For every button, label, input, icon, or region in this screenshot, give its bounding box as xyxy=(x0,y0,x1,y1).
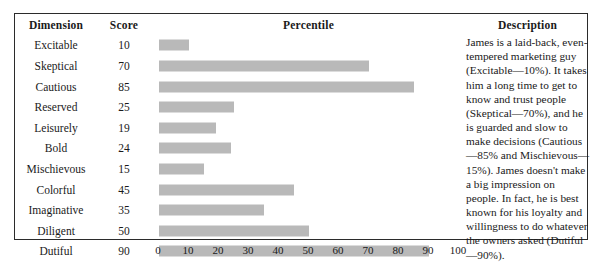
score-value: 35 xyxy=(97,200,151,221)
bar-track xyxy=(151,179,466,200)
dimension-label: Excitable xyxy=(15,35,97,56)
percentile-bar-cell xyxy=(151,138,466,159)
dimension-label: Colorful xyxy=(15,179,97,200)
bar-track xyxy=(151,117,466,138)
score-value: 85 xyxy=(97,76,151,97)
percentile-bar-cell xyxy=(151,117,466,138)
bar-track xyxy=(151,220,466,241)
axis-tick-label: 80 xyxy=(393,244,404,256)
dimension-label: Skeptical xyxy=(15,56,97,77)
percentile-bar xyxy=(159,143,231,154)
column-header-dimension: Dimension xyxy=(15,14,97,35)
axis-tick-label: 90 xyxy=(423,244,434,256)
axis-tick-label: 20 xyxy=(213,244,224,256)
column-header-score: Score xyxy=(97,14,151,35)
percentile-bar xyxy=(159,40,189,51)
dimension-label: Dutiful xyxy=(15,241,97,262)
score-value: 19 xyxy=(97,117,151,138)
score-value: 50 xyxy=(97,220,151,241)
percentile-bar-cell xyxy=(151,76,466,97)
axis-tick-label: 100 xyxy=(450,244,467,256)
score-value: 25 xyxy=(97,97,151,118)
dimension-label: Cautious xyxy=(15,76,97,97)
score-value: 24 xyxy=(97,138,151,159)
percentile-bar xyxy=(159,163,204,174)
percentile-bar-cell xyxy=(151,220,466,241)
percentile-bar-cell xyxy=(151,35,466,56)
axis-tick-label: 60 xyxy=(333,244,344,256)
profile-grid: Dimension Score Percentile Description E… xyxy=(15,14,589,262)
percentile-bar xyxy=(159,102,234,113)
axis-tick-label: 30 xyxy=(243,244,254,256)
header-row: Dimension Score Percentile Description xyxy=(15,14,589,35)
axis-tick-label: 0 xyxy=(155,244,161,256)
axis-tick-label: 70 xyxy=(363,244,374,256)
bar-track xyxy=(151,138,466,159)
column-header-description: Description xyxy=(466,14,589,35)
dimension-label: Diligent xyxy=(15,220,97,241)
bar-track xyxy=(151,56,466,77)
percentile-bar-cell xyxy=(151,97,466,118)
dimension-label: Bold xyxy=(15,138,97,159)
dimension-label: Reserved xyxy=(15,97,97,118)
column-header-percentile: Percentile xyxy=(151,14,466,35)
description-text: James is a laid-back, even-tempered mark… xyxy=(466,35,589,262)
score-value: 10 xyxy=(97,35,151,56)
personality-profile-table: Dimension Score Percentile Description E… xyxy=(14,13,588,240)
percentile-bar-cell xyxy=(151,200,466,221)
axis-tick-label: 50 xyxy=(303,244,314,256)
axis-tick-label: 40 xyxy=(273,244,284,256)
percentile-bar xyxy=(159,60,369,71)
score-value: 15 xyxy=(97,159,151,180)
dimension-label: Imaginative xyxy=(15,200,97,221)
table-header: Dimension Score Percentile Description xyxy=(15,14,589,35)
percentile-bar-cell xyxy=(151,159,466,180)
bar-track xyxy=(151,35,466,56)
percentile-axis: 0102030405060708090100 xyxy=(158,244,460,260)
percentile-bar-cell xyxy=(151,179,466,200)
table-row: Excitable10James is a laid-back, even-te… xyxy=(15,35,589,56)
dimension-label: Leisurely xyxy=(15,117,97,138)
bar-track xyxy=(151,200,466,221)
percentile-bar xyxy=(159,225,309,236)
axis-tick-label: 10 xyxy=(183,244,194,256)
percentile-bar xyxy=(159,122,216,133)
dimension-label: Mischievous xyxy=(15,159,97,180)
bar-track xyxy=(151,159,466,180)
score-value: 70 xyxy=(97,56,151,77)
percentile-bar xyxy=(159,205,264,216)
percentile-bar-cell xyxy=(151,56,466,77)
percentile-bar xyxy=(159,81,414,92)
score-value: 90 xyxy=(97,241,151,262)
score-value: 45 xyxy=(97,179,151,200)
table-body: Excitable10James is a laid-back, even-te… xyxy=(15,35,589,262)
bar-track xyxy=(151,76,466,97)
bar-track xyxy=(151,97,466,118)
percentile-bar xyxy=(159,184,294,195)
